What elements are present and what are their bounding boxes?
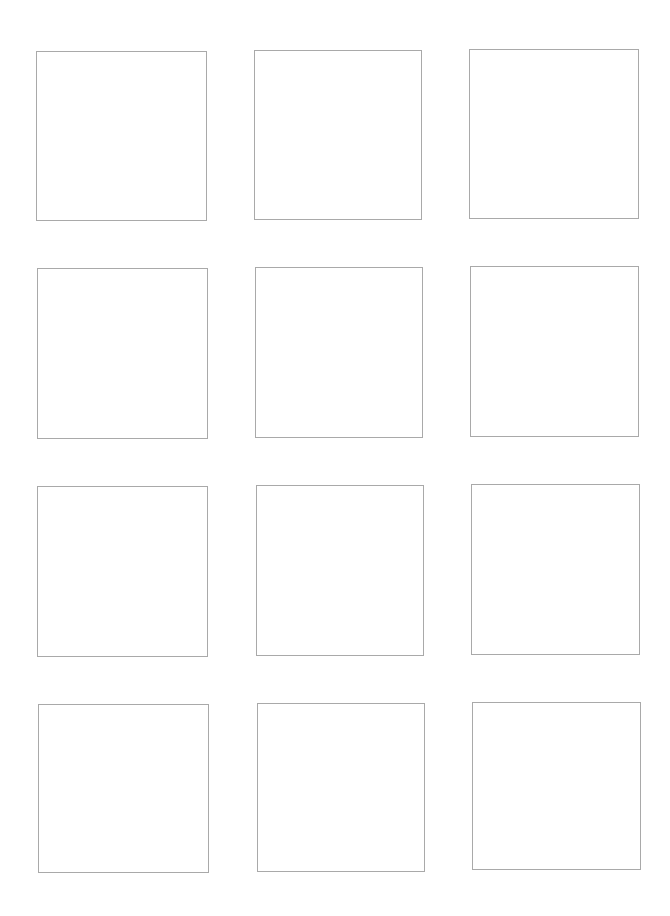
- empty-box-r4-c1: [38, 704, 209, 873]
- empty-box-r1-c3: [469, 49, 639, 219]
- empty-box-r4-c3: [472, 702, 641, 870]
- empty-box-r4-c2: [257, 703, 425, 872]
- empty-box-r1-c1: [36, 51, 207, 221]
- empty-box-r3-c3: [471, 484, 640, 655]
- empty-box-r3-c1: [37, 486, 208, 657]
- empty-box-r2-c3: [470, 266, 639, 437]
- empty-box-r1-c2: [254, 50, 422, 220]
- empty-box-r3-c2: [256, 485, 424, 656]
- empty-box-r2-c1: [37, 268, 208, 439]
- empty-box-r2-c2: [255, 267, 423, 438]
